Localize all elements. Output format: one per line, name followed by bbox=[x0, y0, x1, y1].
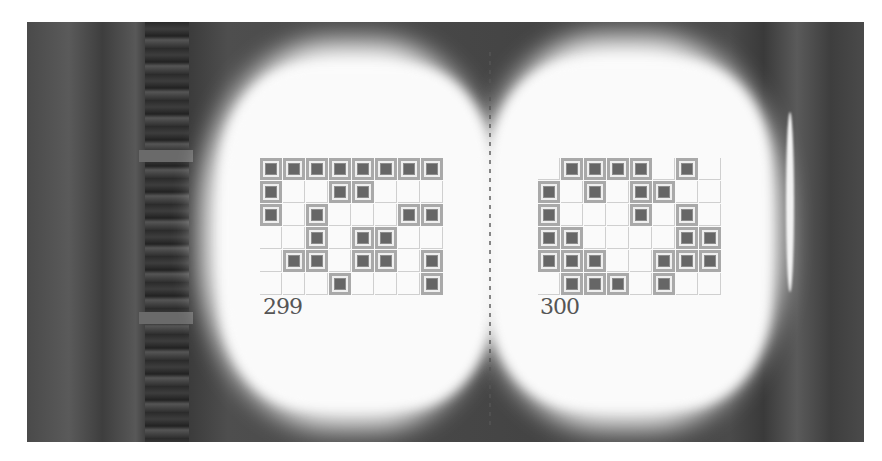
tile-filled[interactable] bbox=[352, 227, 374, 249]
tile-empty[interactable] bbox=[283, 227, 305, 249]
tile-empty[interactable] bbox=[653, 158, 675, 180]
tile-empty[interactable] bbox=[538, 158, 560, 180]
tile-filled[interactable] bbox=[398, 158, 420, 180]
tile-empty[interactable] bbox=[699, 181, 721, 203]
tile-filled[interactable] bbox=[699, 250, 721, 272]
tile-empty[interactable] bbox=[375, 181, 397, 203]
tile-empty[interactable] bbox=[329, 227, 351, 249]
tile-filled[interactable] bbox=[352, 181, 374, 203]
tile-empty[interactable] bbox=[607, 227, 629, 249]
tile-filled[interactable] bbox=[375, 227, 397, 249]
tile-empty[interactable] bbox=[653, 227, 675, 249]
tile-filled[interactable] bbox=[538, 181, 560, 203]
tile-empty[interactable] bbox=[283, 273, 305, 295]
tile-empty[interactable] bbox=[260, 227, 282, 249]
tile-filled[interactable] bbox=[283, 250, 305, 272]
tile-filled[interactable] bbox=[676, 158, 698, 180]
tile-filled[interactable] bbox=[398, 204, 420, 226]
tile-filled[interactable] bbox=[306, 227, 328, 249]
tile-empty[interactable] bbox=[398, 250, 420, 272]
tile-filled[interactable] bbox=[584, 250, 606, 272]
tile-filled[interactable] bbox=[283, 158, 305, 180]
tile-empty[interactable] bbox=[398, 227, 420, 249]
tile-filled[interactable] bbox=[699, 227, 721, 249]
tile-filled[interactable] bbox=[375, 250, 397, 272]
tile-filled[interactable] bbox=[561, 273, 583, 295]
tile-empty[interactable] bbox=[329, 250, 351, 272]
right-tile-grid[interactable] bbox=[538, 158, 721, 295]
tile-filled[interactable] bbox=[607, 273, 629, 295]
tile-filled[interactable] bbox=[306, 158, 328, 180]
tile-empty[interactable] bbox=[329, 204, 351, 226]
tile-filled[interactable] bbox=[306, 250, 328, 272]
left-tile-grid[interactable] bbox=[260, 158, 443, 295]
tile-empty[interactable] bbox=[584, 227, 606, 249]
tile-filled[interactable] bbox=[676, 227, 698, 249]
tile-filled[interactable] bbox=[630, 181, 652, 203]
tile-filled[interactable] bbox=[561, 158, 583, 180]
tile-filled[interactable] bbox=[676, 204, 698, 226]
tile-empty[interactable] bbox=[676, 273, 698, 295]
tile-empty[interactable] bbox=[561, 204, 583, 226]
tile-empty[interactable] bbox=[260, 250, 282, 272]
tile-filled[interactable] bbox=[584, 158, 606, 180]
tile-empty[interactable] bbox=[421, 227, 443, 249]
tile-empty[interactable] bbox=[352, 273, 374, 295]
tile-filled[interactable] bbox=[329, 273, 351, 295]
tile-empty[interactable] bbox=[260, 273, 282, 295]
tile-empty[interactable] bbox=[584, 204, 606, 226]
tile-empty[interactable] bbox=[676, 181, 698, 203]
tile-filled[interactable] bbox=[653, 273, 675, 295]
tile-filled[interactable] bbox=[653, 250, 675, 272]
tile-empty[interactable] bbox=[699, 204, 721, 226]
tile-filled[interactable] bbox=[538, 204, 560, 226]
tile-empty[interactable] bbox=[306, 181, 328, 203]
page-number-left: 299 bbox=[263, 294, 302, 319]
tile-empty[interactable] bbox=[352, 204, 374, 226]
tile-empty[interactable] bbox=[653, 204, 675, 226]
tile-empty[interactable] bbox=[699, 158, 721, 180]
tile-empty[interactable] bbox=[375, 273, 397, 295]
tile-filled[interactable] bbox=[561, 227, 583, 249]
tile-filled[interactable] bbox=[375, 158, 397, 180]
tile-empty[interactable] bbox=[306, 273, 328, 295]
tile-filled[interactable] bbox=[352, 250, 374, 272]
tile-filled[interactable] bbox=[352, 158, 374, 180]
tile-filled[interactable] bbox=[421, 250, 443, 272]
tile-filled[interactable] bbox=[584, 273, 606, 295]
tile-filled[interactable] bbox=[630, 158, 652, 180]
tile-empty[interactable] bbox=[421, 181, 443, 203]
tile-filled[interactable] bbox=[561, 250, 583, 272]
tile-empty[interactable] bbox=[607, 181, 629, 203]
tile-empty[interactable] bbox=[375, 204, 397, 226]
tile-empty[interactable] bbox=[283, 181, 305, 203]
tile-filled[interactable] bbox=[630, 204, 652, 226]
tile-empty[interactable] bbox=[398, 273, 420, 295]
tile-filled[interactable] bbox=[584, 181, 606, 203]
tile-empty[interactable] bbox=[630, 227, 652, 249]
tile-filled[interactable] bbox=[676, 250, 698, 272]
tile-empty[interactable] bbox=[699, 273, 721, 295]
tile-empty[interactable] bbox=[607, 204, 629, 226]
tile-filled[interactable] bbox=[421, 204, 443, 226]
tile-empty[interactable] bbox=[630, 273, 652, 295]
tile-empty[interactable] bbox=[538, 273, 560, 295]
tile-filled[interactable] bbox=[421, 158, 443, 180]
tile-filled[interactable] bbox=[538, 227, 560, 249]
tile-filled[interactable] bbox=[329, 181, 351, 203]
tile-filled[interactable] bbox=[260, 204, 282, 226]
tile-filled[interactable] bbox=[260, 181, 282, 203]
shelf-bracket-bottom bbox=[139, 312, 193, 324]
tile-filled[interactable] bbox=[653, 181, 675, 203]
tile-filled[interactable] bbox=[306, 204, 328, 226]
tile-filled[interactable] bbox=[260, 158, 282, 180]
tile-empty[interactable] bbox=[561, 181, 583, 203]
tile-filled[interactable] bbox=[329, 158, 351, 180]
tile-empty[interactable] bbox=[283, 204, 305, 226]
tile-empty[interactable] bbox=[630, 250, 652, 272]
tile-filled[interactable] bbox=[538, 250, 560, 272]
tile-empty[interactable] bbox=[607, 250, 629, 272]
tile-empty[interactable] bbox=[398, 181, 420, 203]
tile-filled[interactable] bbox=[607, 158, 629, 180]
tile-filled[interactable] bbox=[421, 273, 443, 295]
